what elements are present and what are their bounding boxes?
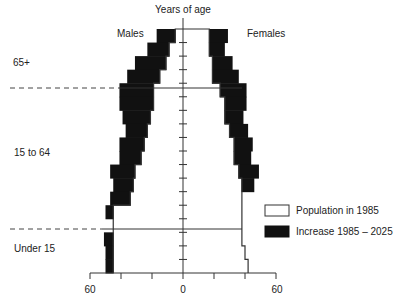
increase-bar-male-65-69 [119, 83, 154, 97]
x-axis-ticks [90, 273, 276, 279]
increase-bar-female-55-59 [224, 110, 243, 124]
increase-bar-female-65-69 [220, 83, 247, 97]
legend-label-population-1985: Population in 1985 [296, 205, 379, 216]
legend-swatch-population-1985 [265, 205, 289, 216]
increase-bar-male-45-49 [119, 137, 144, 151]
x-tick-label-right-60: 60 [271, 284, 283, 295]
age-group-under15: Under 15 [14, 243, 56, 254]
legend-label-increase: Increase 1985 – 2025 [296, 226, 393, 237]
increase-bar-female-30-34 [241, 178, 254, 192]
increase-bar-male-10-14 [104, 232, 114, 246]
increase-bar-male-60-64 [119, 97, 154, 111]
increase-bar-male-20-24 [106, 205, 114, 219]
population-pyramid-chart: Years of age Males Females 65+ 15 to 64 … [0, 0, 395, 302]
increase-bar-male-75-79 [135, 56, 167, 70]
x-tick-label-0: 0 [180, 284, 186, 295]
legend: Population in 1985 Increase 1985 – 2025 [265, 205, 393, 237]
increase-bar-male-80-84 [147, 43, 169, 57]
chart-title: Years of age [155, 4, 211, 15]
increase-bar-male-70-74 [127, 70, 160, 84]
increase-bar-female-40-44 [234, 151, 252, 165]
increase-bar-female-45-49 [234, 137, 253, 151]
increase-bar-female-60-64 [224, 97, 246, 111]
increase-bar-male-40-44 [119, 151, 141, 165]
increase-bar-female-80-84 [209, 43, 225, 57]
x-tick-label-left-60: 60 [84, 284, 96, 295]
increase-bar-female-50-54 [229, 124, 248, 138]
males-label: Males [117, 28, 144, 39]
age-group-65plus: 65+ [13, 57, 30, 68]
increase-bar-male-55-59 [123, 110, 151, 124]
age-group-15-64: 15 to 64 [14, 147, 51, 158]
increase-bar-male-35-39 [110, 165, 135, 179]
increase-bar-male-85+ [157, 29, 176, 43]
increase-bar-male-50-54 [126, 124, 148, 138]
increase-bar-female-85+ [209, 29, 228, 43]
increase-bar-female-75-79 [212, 56, 233, 70]
legend-swatch-increase [265, 226, 289, 237]
increase-bar-male-30-34 [113, 178, 134, 192]
increase-bar-male-5-9 [106, 246, 114, 260]
increase-bar-male-25-29 [110, 192, 131, 206]
increase-bar-female-35-39 [238, 165, 259, 179]
increase-bar-female-70-74 [212, 70, 239, 84]
females-label: Females [247, 28, 285, 39]
increase-bar-male-0-4 [106, 259, 114, 273]
